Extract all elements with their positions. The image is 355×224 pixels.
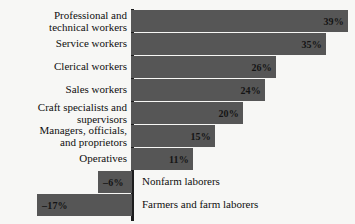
bar-row: 39%Professional and technical workers bbox=[0, 10, 355, 32]
category-label: Nonfarm laborers bbox=[142, 176, 220, 188]
bar-value-label: 20% bbox=[218, 108, 239, 119]
bar-row: 15%Managers, officials, and proprietors bbox=[0, 125, 355, 147]
bar: 11% bbox=[131, 148, 193, 170]
bar-value-label: –17% bbox=[42, 200, 68, 211]
bar: 35% bbox=[131, 33, 326, 55]
bar-row: 24%Sales workers bbox=[0, 79, 355, 101]
category-label: Sales workers bbox=[3, 84, 127, 96]
bar: –17% bbox=[37, 194, 132, 216]
bar: 39% bbox=[131, 10, 348, 32]
bar: 15% bbox=[131, 125, 215, 147]
bar-row: 20%Craft specialists and supervisors bbox=[0, 102, 355, 124]
category-label: Operatives bbox=[3, 153, 127, 165]
bar-value-label: 11% bbox=[169, 154, 189, 165]
category-label: Service workers bbox=[3, 38, 127, 50]
bar-value-label: 26% bbox=[251, 62, 272, 73]
category-label: Professional and technical workers bbox=[3, 10, 127, 33]
bar-row: –17%Farmers and farm laborers bbox=[0, 194, 355, 216]
category-label: Managers, officials, and proprietors bbox=[3, 125, 127, 148]
bar: 26% bbox=[131, 56, 276, 78]
bar-value-label: 15% bbox=[190, 131, 211, 142]
bar-value-label: –6% bbox=[103, 177, 124, 188]
bar: 20% bbox=[131, 102, 243, 124]
bar-row: 26%Clerical workers bbox=[0, 56, 355, 78]
bar: 24% bbox=[131, 79, 265, 101]
horizontal-bar-chart: 39%Professional and technical workers35%… bbox=[0, 0, 355, 224]
bar-value-label: 39% bbox=[323, 16, 344, 27]
bar-value-label: 24% bbox=[240, 85, 261, 96]
bar-row: –6%Nonfarm laborers bbox=[0, 171, 355, 193]
category-label: Craft specialists and supervisors bbox=[3, 102, 127, 125]
bar: –6% bbox=[98, 171, 132, 193]
bar-row: 35%Service workers bbox=[0, 33, 355, 55]
category-label: Farmers and farm laborers bbox=[142, 199, 258, 211]
category-label: Clerical workers bbox=[3, 61, 127, 73]
bar-row: 11%Operatives bbox=[0, 148, 355, 170]
bar-value-label: 35% bbox=[301, 39, 322, 50]
